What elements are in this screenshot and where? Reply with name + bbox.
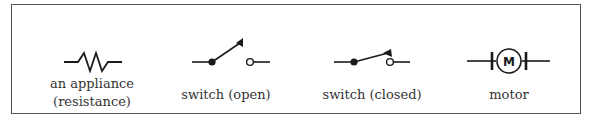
motor-label-text: motor (489, 86, 528, 104)
resistor-label-line2: (resistance) (50, 93, 134, 111)
switch-open-label: switch (open) (181, 86, 270, 104)
switch-open-label-text: switch (open) (181, 86, 270, 104)
resistor-zigzag-icon (60, 48, 130, 78)
switch-open-icon (190, 35, 280, 70)
resistor-label-line1: an appliance (50, 75, 134, 93)
motor-label: motor (489, 86, 528, 104)
resistor-label: an appliance (resistance) (50, 75, 134, 111)
switch-closed-icon (330, 35, 420, 70)
motor-icon: M (465, 44, 555, 74)
motor-glyph: M (503, 55, 515, 69)
switch-closed-label: switch (closed) (322, 86, 421, 104)
switch-closed-label-text: switch (closed) (322, 86, 421, 104)
